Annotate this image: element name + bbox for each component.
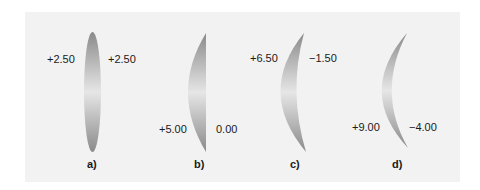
lens-d-front-power: +9.00 [352, 122, 380, 133]
lens-a-back-power: +2.50 [108, 54, 136, 65]
lens-d-back-power: −4.00 [409, 122, 437, 133]
lens-d-shape [382, 33, 408, 148]
lens-a-shape [84, 32, 101, 152]
lens-c-shape [280, 33, 306, 152]
lens-b-shape [188, 33, 206, 152]
lens-c-back-power: −1.50 [309, 53, 337, 64]
lens-b-caption: b) [194, 159, 204, 170]
lens-a-caption: a) [87, 159, 97, 170]
lens-b-front-power: +5.00 [159, 124, 187, 135]
lens-diagram [0, 0, 480, 190]
lens-b-back-power: 0.00 [216, 124, 237, 135]
lens-a-front-power: +2.50 [47, 54, 75, 65]
lens-c-front-power: +6.50 [250, 53, 278, 64]
lens-d-caption: d) [392, 159, 402, 170]
lens-c-caption: c) [290, 159, 300, 170]
